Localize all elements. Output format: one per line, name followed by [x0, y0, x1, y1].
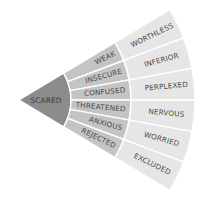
core-label: SCARED [31, 96, 62, 105]
feelings-wheel: SCAREDWEAKWORTHLESSINSECUREINFERIORCONFU… [0, 0, 205, 202]
